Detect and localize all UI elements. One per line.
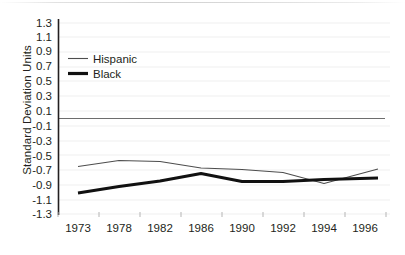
- chart-figure: Standard Deviation Units 1.3 1.1 0.9 0.7…: [0, 0, 405, 255]
- x-tick-label-1994: 1994: [301, 222, 347, 234]
- x-tick-label-1978: 1978: [96, 222, 142, 234]
- x-tick-label-1992: 1992: [260, 222, 306, 234]
- x-tick-label-1996: 1996: [342, 222, 388, 234]
- legend-swatch-group: [68, 59, 88, 74]
- x-tick-label-1990: 1990: [219, 222, 265, 234]
- x-tick-label-1973: 1973: [55, 222, 101, 234]
- series-line-black: [78, 174, 378, 194]
- x-tick-label-1982: 1982: [137, 222, 183, 234]
- legend-label-hispanic: Hispanic: [93, 53, 137, 65]
- x-tick-label-1986: 1986: [178, 222, 224, 234]
- legend-label-black: Black: [93, 68, 121, 80]
- plot-area: [0, 0, 405, 255]
